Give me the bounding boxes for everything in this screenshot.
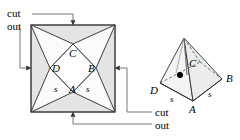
net-label-s-left: s: [54, 85, 58, 94]
pyramid-center-dot: [177, 72, 183, 78]
leader-bottom-line: [73, 116, 152, 124]
callout-top-cut: cut: [7, 7, 20, 20]
pyramid-label-B: B: [226, 73, 233, 84]
net-label-C: C: [69, 48, 76, 59]
net-label-B: B: [88, 63, 95, 74]
pyramid-diagram: [160, 38, 222, 101]
pyramid-label-D: D: [150, 85, 158, 96]
net-label-s-right: s: [86, 85, 90, 94]
pyramid-label-A: A: [189, 104, 196, 115]
net-label-A: A: [69, 84, 76, 95]
pyramid-label-s-left: s: [170, 95, 174, 104]
callout-bottom-out: out: [155, 119, 169, 132]
figure-canvas: [0, 0, 240, 140]
leader-right-line: [127, 68, 152, 112]
leader-left-line: [20, 27, 28, 68]
callout-bottom-cut: cut: [155, 106, 168, 119]
net-label-D: D: [52, 63, 60, 74]
geometry-figure: cut out cut out C B D A s s C B D A s s: [0, 0, 240, 140]
callout-top-out: out: [7, 20, 21, 33]
pyramid-label-C: C: [189, 58, 196, 69]
pyramid-label-s-right: s: [208, 90, 212, 99]
leader-top-line: [32, 14, 73, 22]
net-diagram: [31, 25, 115, 112]
